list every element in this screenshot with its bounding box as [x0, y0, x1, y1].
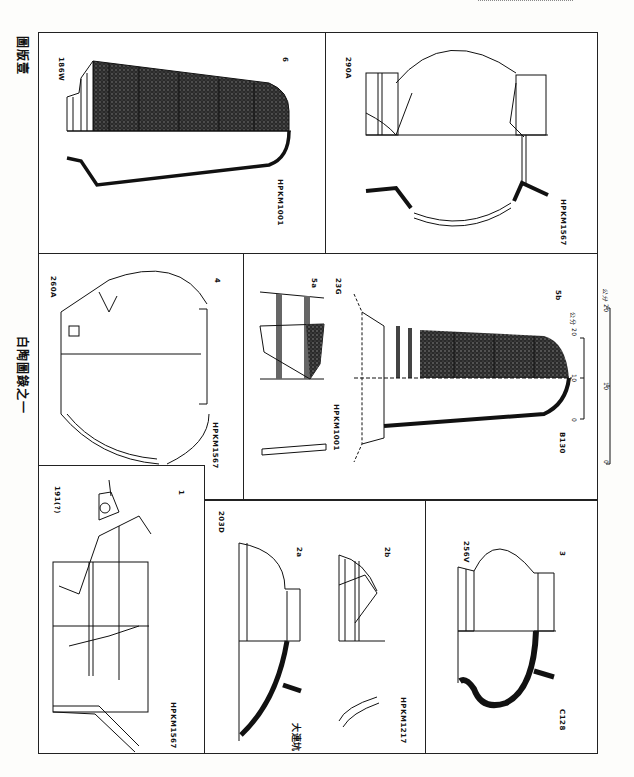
- outer-scale-unit: 公分: [601, 288, 610, 301]
- panel-5: 5a 23G HPKM1001 5b B130: [243, 253, 598, 500]
- vessel-drawing-cup: [244, 254, 599, 501]
- plate-title: 圖版壹: [15, 36, 32, 75]
- panel-2: 203D 2a 2b 大連坑 HPKM1217: [204, 500, 426, 754]
- scale-unit: 公分: [569, 312, 578, 325]
- series-title: 白陶圖錄之一: [15, 336, 32, 414]
- panel-290A: 290A HPKM1567: [325, 32, 598, 254]
- panel-1: 191(?) 1 HPKM1567: [38, 465, 205, 754]
- scale-tick-0: 0: [571, 418, 578, 422]
- vessel-drawing-jar: [426, 501, 599, 755]
- outer-scale-tick-10: 10: [603, 382, 610, 391]
- vessel-drawing-jar: [39, 254, 245, 501]
- vessel-drawing-bowls: [205, 501, 427, 755]
- vessel-drawing-jar: [39, 33, 327, 255]
- outer-scale-tick-20: 20: [603, 304, 610, 313]
- scale-tick-10: 10: [571, 374, 578, 383]
- panel-4: 260A 4 HPKM1567: [38, 253, 244, 500]
- panel-6: 186W 6 HPKM1001: [38, 32, 326, 254]
- scan-artifact-line: [478, 0, 573, 3]
- panel-3: 256V 3 C128: [425, 500, 598, 754]
- vessel-drawing-pot: [326, 33, 599, 255]
- vessel-drawing-fragments: [39, 466, 206, 755]
- scale-tick-20: 20: [571, 328, 578, 337]
- outer-scale-tick-0: 0: [603, 460, 610, 464]
